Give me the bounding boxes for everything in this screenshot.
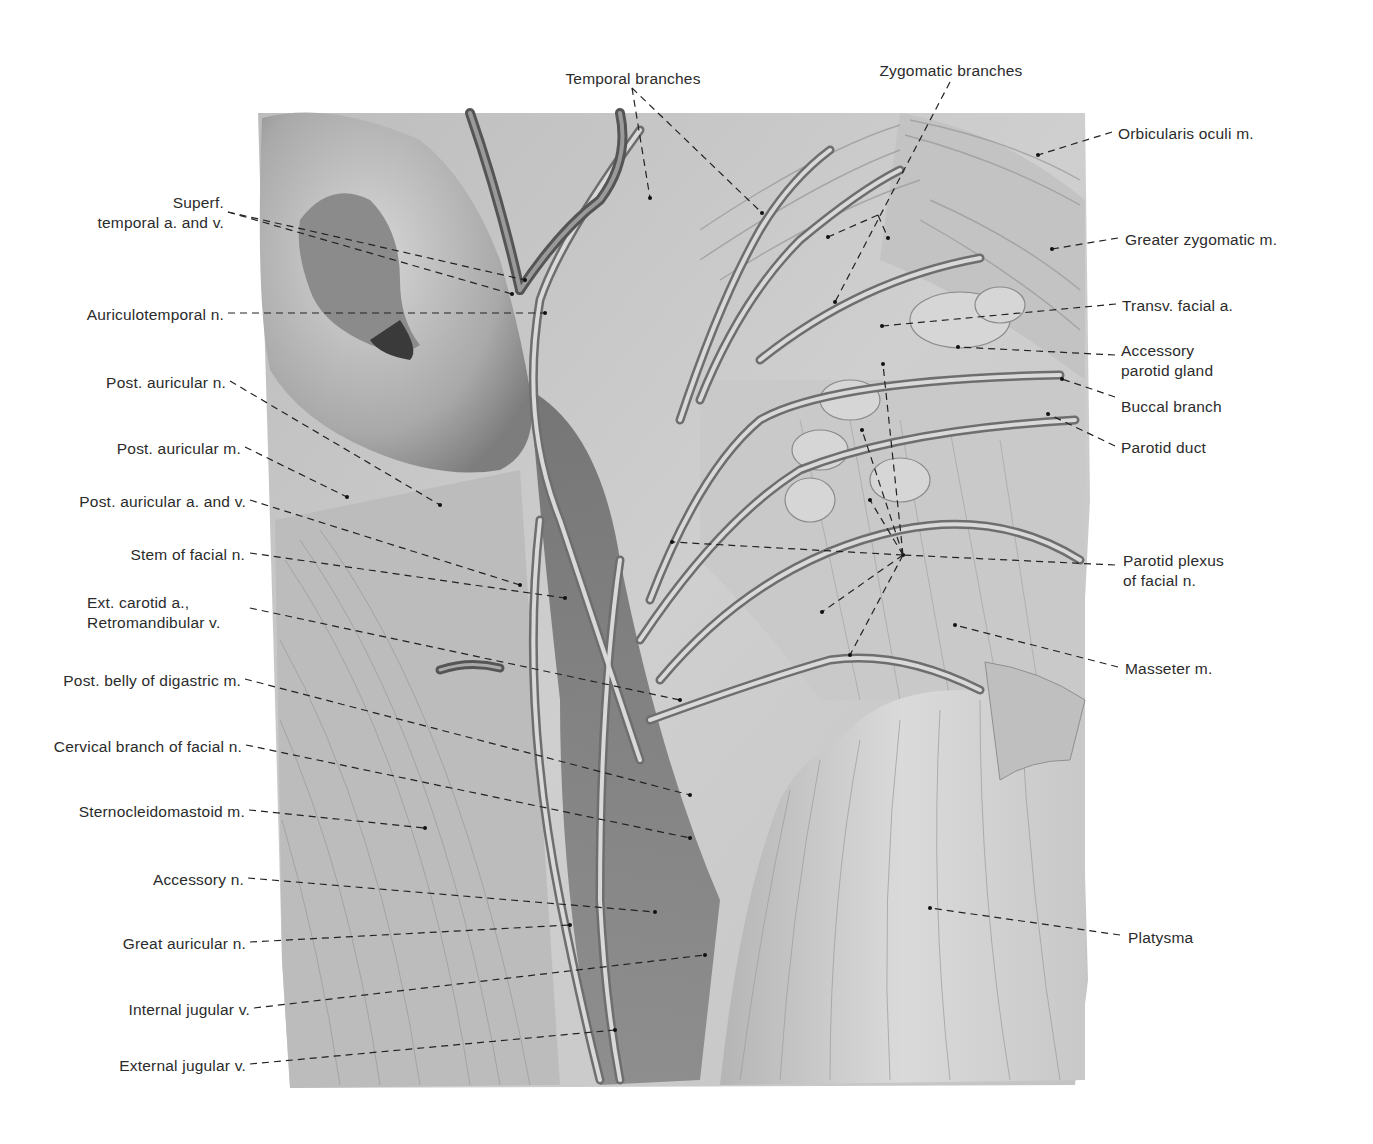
- label-text: External jugular v.: [119, 1056, 246, 1076]
- label-stem-facial: Stem of facial n.: [130, 545, 245, 565]
- label-parotid-plexus: Parotid plexus of facial n.: [1123, 551, 1224, 591]
- label-text: Ext. carotid a.,: [87, 593, 220, 613]
- label-text: parotid gland: [1121, 361, 1213, 381]
- label-post-auricular-n: Post. auricular n.: [106, 373, 226, 393]
- label-ext-carotid: Ext. carotid a., Retromandibular v.: [87, 593, 220, 633]
- label-text: Accessory: [1121, 341, 1213, 361]
- label-text: Platysma: [1128, 928, 1193, 948]
- label-transv-facial: Transv. facial a.: [1122, 296, 1233, 316]
- label-cervical-branch: Cervical branch of facial n.: [54, 737, 242, 757]
- label-buccal-branch: Buccal branch: [1121, 397, 1222, 417]
- label-internal-jugular: Internal jugular v.: [128, 1000, 250, 1020]
- label-text: Post. auricular n.: [106, 373, 226, 393]
- label-text: Internal jugular v.: [128, 1000, 250, 1020]
- label-text: temporal a. and v.: [97, 213, 224, 233]
- label-text: of facial n.: [1123, 571, 1224, 591]
- label-text: Temporal branches: [565, 70, 700, 87]
- label-text: Post. auricular a. and v.: [79, 492, 246, 512]
- label-post-auricular-av: Post. auricular a. and v.: [79, 492, 246, 512]
- label-text: Parotid duct: [1121, 438, 1206, 458]
- label-superf-temporal: Superf. temporal a. and v.: [97, 193, 224, 233]
- label-sternocleidomastoid: Sternocleidomastoid m.: [79, 802, 245, 822]
- label-text: Post. auricular m.: [117, 439, 241, 459]
- label-post-auricular-m: Post. auricular m.: [117, 439, 241, 459]
- label-text: Superf.: [97, 193, 224, 213]
- label-greater-zygomatic: Greater zygomatic m.: [1125, 230, 1277, 250]
- label-accessory-parotid: Accessory parotid gland: [1121, 341, 1213, 381]
- label-temporal-branches: Temporal branches: [543, 69, 723, 89]
- label-text: Greater zygomatic m.: [1125, 230, 1277, 250]
- label-text: Stem of facial n.: [130, 545, 245, 565]
- label-text: Sternocleidomastoid m.: [79, 802, 245, 822]
- label-zygomatic-branches: Zygomatic branches: [852, 61, 1050, 81]
- label-text: Retromandibular v.: [87, 613, 220, 633]
- label-accessory-n: Accessory n.: [153, 870, 244, 890]
- label-text: Transv. facial a.: [1122, 296, 1233, 316]
- sternocleidomastoid-muscle: [275, 470, 560, 1088]
- label-orbicularis-oculi: Orbicularis oculi m.: [1118, 124, 1254, 144]
- label-masseter: Masseter m.: [1125, 659, 1212, 679]
- label-text: Accessory n.: [153, 870, 244, 890]
- label-text: Orbicularis oculi m.: [1118, 124, 1254, 144]
- label-external-jugular: External jugular v.: [119, 1056, 246, 1076]
- label-text: Auriculotemporal n.: [87, 305, 224, 325]
- label-text: Cervical branch of facial n.: [54, 737, 242, 757]
- label-text: Post. belly of digastric m.: [63, 671, 241, 691]
- label-text: Zygomatic branches: [879, 62, 1022, 79]
- label-text: Masseter m.: [1125, 659, 1212, 679]
- label-text: Great auricular n.: [123, 934, 246, 954]
- label-great-auricular: Great auricular n.: [123, 934, 246, 954]
- label-parotid-duct: Parotid duct: [1121, 438, 1206, 458]
- label-auriculotemporal: Auriculotemporal n.: [87, 305, 224, 325]
- label-text: Parotid plexus: [1123, 551, 1224, 571]
- label-text: Buccal branch: [1121, 397, 1222, 417]
- label-post-belly-digastric: Post. belly of digastric m.: [63, 671, 241, 691]
- label-platysma: Platysma: [1128, 928, 1193, 948]
